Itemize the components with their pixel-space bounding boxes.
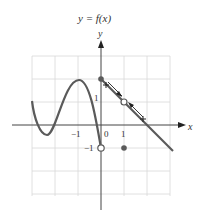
y-tick-neg1: −1 bbox=[84, 144, 94, 153]
x-axis-arrow-icon bbox=[178, 122, 186, 128]
filled-point-0-2 bbox=[98, 76, 104, 82]
filled-point-1-neg1 bbox=[121, 145, 127, 151]
y-axis-arrow-icon bbox=[98, 40, 104, 48]
x-tick-neg1: −1 bbox=[71, 130, 81, 139]
curve-left bbox=[32, 80, 101, 148]
y-axis-label: y bbox=[98, 29, 102, 39]
open-point-1-1 bbox=[121, 99, 127, 105]
y-tick-1: 1 bbox=[94, 94, 99, 103]
graph-title: y = f(x) bbox=[78, 13, 111, 24]
x-axis-label: x bbox=[188, 122, 192, 132]
line-right bbox=[101, 79, 173, 151]
axes bbox=[12, 46, 180, 210]
x-tick-1: 1 bbox=[121, 130, 126, 139]
x-tick-0: 0 bbox=[104, 130, 109, 139]
open-point-0-neg1 bbox=[98, 145, 104, 151]
